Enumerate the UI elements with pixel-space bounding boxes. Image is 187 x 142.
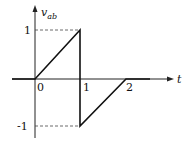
y-tick-neg1: -1 bbox=[17, 120, 28, 133]
waveform-line bbox=[12, 30, 150, 126]
x-tick-1: 1 bbox=[83, 81, 90, 94]
x-axis-arrow-icon bbox=[167, 77, 174, 82]
y-tick-1: 1 bbox=[24, 24, 31, 37]
x-tick-2: 2 bbox=[126, 81, 133, 94]
y-axis-arrow-icon bbox=[33, 5, 38, 12]
y-axis-label: vab bbox=[41, 6, 57, 21]
waveform-chart: vab t 0 1 2 1 -1 bbox=[0, 0, 187, 142]
x-axis-label: t bbox=[177, 73, 182, 86]
x-tick-0: 0 bbox=[37, 81, 44, 94]
